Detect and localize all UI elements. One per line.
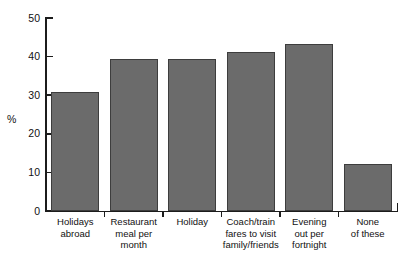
bar [344,164,392,211]
bar [285,44,333,211]
y-axis-tick-label: 30 [0,89,40,101]
x-axis-category-label: Holiday [159,216,226,228]
y-axis-tick-label: 20 [0,127,40,139]
x-axis-category-label: Restaurant meal per month [101,216,168,251]
y-axis-tick [45,17,53,19]
x-axis-category-label: Evening out per fortnight [276,216,343,251]
y-axis-tick-label: 50 [0,12,40,24]
y-axis-tick [45,56,53,58]
x-axis-category-label: None of these [335,216,402,239]
x-category-label-layer: Holidays abroadRestaurant meal per month… [0,216,412,266]
x-axis-right-cap [397,203,399,211]
y-axis-line [45,17,47,212]
bar-chart: % 01020304050 Holidays abroadRestaurant … [0,0,412,266]
x-axis-category-label: Holidays abroad [42,216,109,239]
y-axis-tick-label: 40 [0,50,40,62]
bar [110,59,158,211]
bar [168,59,216,211]
bar [51,92,99,211]
y-axis-tick-label: 10 [0,166,40,178]
x-axis-category-label: Coach/train fares to visit family/friend… [218,216,285,251]
bar [227,52,275,211]
y-axis-tick-label: 0 [0,205,40,217]
